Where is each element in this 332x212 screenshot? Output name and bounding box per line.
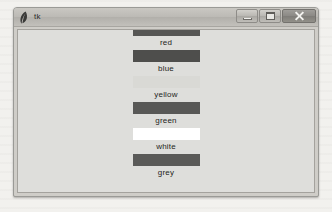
tk-window: tk redblueyellowgreenwhitegrey	[13, 7, 319, 197]
swatch-label: grey	[158, 166, 174, 180]
swatch-row: white	[18, 128, 314, 154]
swatch-label: blue	[158, 62, 174, 76]
window-titlebar[interactable]: tk	[14, 8, 318, 27]
swatch-row: grey	[18, 154, 314, 180]
swatch-label: red	[160, 36, 172, 50]
color-swatch-yellow	[133, 76, 200, 88]
swatch-row: blue	[18, 50, 314, 76]
close-icon	[294, 11, 304, 21]
window-title: tk	[34, 13, 41, 21]
swatch-label: white	[156, 140, 176, 154]
color-swatch-red	[133, 29, 200, 36]
swatch-row: yellow	[18, 76, 314, 102]
swatch-row: red	[18, 29, 314, 50]
close-button[interactable]	[282, 9, 316, 23]
color-swatch-grey	[133, 154, 200, 166]
maximize-icon	[266, 12, 275, 20]
minimize-icon	[243, 18, 252, 20]
color-swatch-white	[133, 128, 200, 140]
window-controls	[236, 9, 316, 23]
feather-icon	[19, 11, 29, 24]
color-swatch-green	[133, 102, 200, 114]
maximize-button[interactable]	[259, 9, 281, 23]
swatch-row: green	[18, 102, 314, 128]
window-client-area: redblueyellowgreenwhitegrey	[17, 29, 315, 193]
minimize-button[interactable]	[236, 9, 258, 23]
color-swatch-blue	[133, 50, 200, 62]
swatch-label: green	[155, 114, 176, 128]
color-swatch-list: redblueyellowgreenwhitegrey	[18, 29, 314, 180]
swatch-label: yellow	[154, 88, 177, 102]
